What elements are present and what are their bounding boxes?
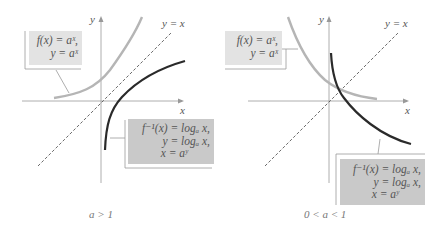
log-box-line3: x = aʸ [128,147,210,160]
y-axis-arrow-icon [327,16,332,22]
exp-leader-line [56,70,69,93]
log-function-box: f⁻¹(x) = logₐ x, y = logₐ x, x = aʸ [128,119,214,164]
log-box-line1: f⁻¹(x) = logₐ x, [340,163,421,176]
caption-a-between-0-1: 0 < a < 1 [304,208,346,220]
exp-box-line2: y = aˣ [225,47,278,60]
x-axis-arrow-icon [178,99,184,104]
exp-box-line2: y = aˣ [29,47,78,60]
exp-box-line1: f(x) = aˣ, [225,34,278,47]
y-axis-label: y [90,13,95,25]
log-box-line2: y = logₐ x, [340,176,421,189]
x-axis-arrow-icon [403,99,409,104]
x-axis-label: x [180,104,185,116]
exp-curve [288,17,377,99]
log-box-line3: x = aʸ [340,188,421,201]
log-box-line1: f⁻¹(x) = logₐ x, [128,122,210,135]
x-axis-label: x [405,104,410,116]
identity-line-label: y = x [385,17,408,29]
caption-a-greater-1: a > 1 [89,208,113,220]
exp-function-box: f(x) = aˣ, y = aˣ [29,31,82,65]
log-function-box: f⁻¹(x) = logₐ x, y = logₐ x, x = aʸ [340,159,425,205]
exp-function-box: f(x) = aˣ, y = aˣ [225,31,282,65]
y-axis-arrow-icon [99,16,104,22]
log-leader-line [378,139,380,154]
log-box-line2: y = logₐ x, [128,135,210,148]
y-axis-label: y [319,13,324,25]
identity-line-label: y = x [162,17,185,29]
exp-box-line1: f(x) = aˣ, [29,34,78,47]
